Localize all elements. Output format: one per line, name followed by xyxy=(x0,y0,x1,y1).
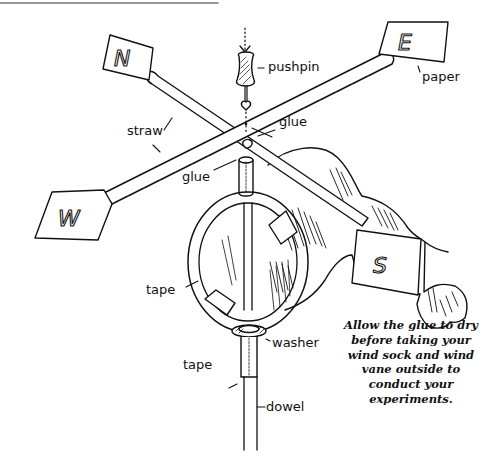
wind-vane-diagram: N E W S pushpin paper straw glue glue ta… xyxy=(0,0,489,473)
label-tape-dowel: tape xyxy=(183,358,212,371)
label-tape-ring: tape xyxy=(146,283,175,296)
label-paper: paper xyxy=(422,70,460,83)
instruction-note: Allow the glue to dry before taking your… xyxy=(336,318,486,407)
ring xyxy=(188,192,308,332)
pushpin xyxy=(237,28,255,132)
straw-north-south xyxy=(147,71,368,226)
upper-tube xyxy=(239,157,253,196)
washer xyxy=(232,325,266,337)
label-dowel: dowel xyxy=(266,400,304,413)
label-washer: washer xyxy=(272,336,319,349)
label-glue-left: glue xyxy=(182,170,210,183)
lower-dowel xyxy=(241,337,257,450)
flag-west-letter: W xyxy=(58,206,81,231)
label-glue-top: glue xyxy=(279,115,307,128)
label-straw: straw xyxy=(127,124,163,137)
flag-south-letter: S xyxy=(373,253,387,278)
label-pushpin: pushpin xyxy=(268,60,320,73)
flag-east-letter: E xyxy=(398,30,412,55)
flag-north-letter: N xyxy=(114,46,130,71)
dowel xyxy=(244,203,252,310)
